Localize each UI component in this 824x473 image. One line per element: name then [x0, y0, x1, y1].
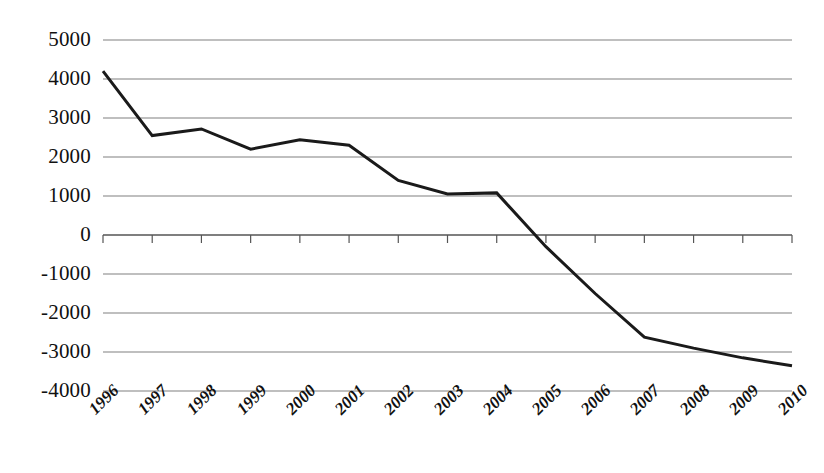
y-axis-tick-label: 3000 — [48, 105, 91, 130]
y-axis-tick-label: -2000 — [41, 300, 91, 325]
y-axis-tick-label: -1000 — [41, 261, 91, 286]
axis-ticks-group — [103, 235, 792, 243]
y-axis-tick-label: 0 — [80, 222, 91, 247]
y-axis-tick-label: -4000 — [41, 378, 91, 403]
y-axis-tick-label: 4000 — [48, 66, 91, 91]
y-axis-tick-label: 1000 — [48, 183, 91, 208]
gridlines-group — [103, 40, 792, 391]
data-series-line — [103, 71, 792, 365]
line-chart-figure: 500040003000200010000-1000-2000-3000-400… — [0, 0, 824, 473]
y-axis-tick-label: -3000 — [41, 339, 91, 364]
y-axis-tick-label: 5000 — [48, 27, 91, 52]
y-axis-tick-label: 2000 — [48, 144, 91, 169]
